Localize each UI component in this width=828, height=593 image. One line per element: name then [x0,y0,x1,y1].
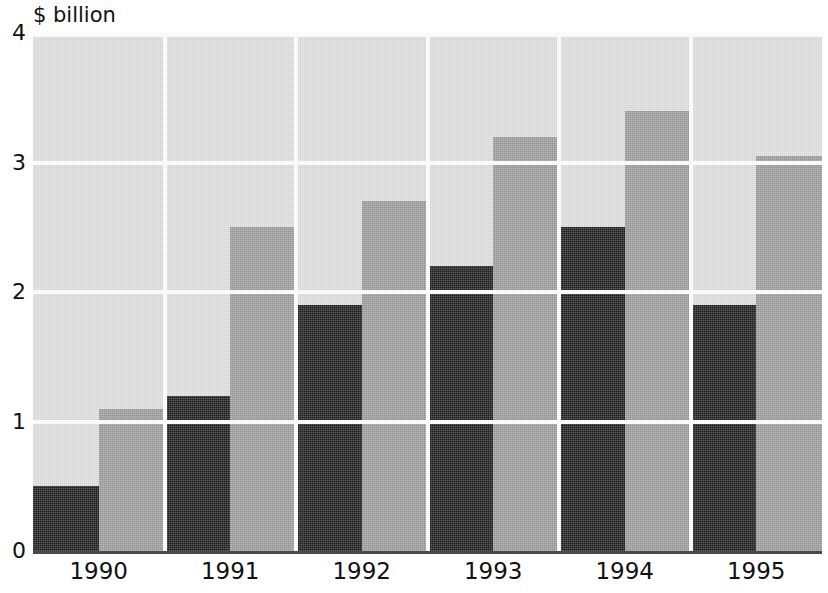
x-tick-label-1994: 1994 [559,558,691,584]
gridline-x-1992 [294,33,298,551]
y-tick-label-3: 3 [0,152,26,174]
bar-series-b-1992 [362,201,428,551]
bar-series-b-1994 [625,111,691,551]
bar-series-a-1993 [428,266,494,551]
x-tick-label-1993: 1993 [428,558,560,584]
x-tick-label-1995: 1995 [691,558,823,584]
axis-baseline [33,551,822,554]
x-tick-label-1990: 1990 [33,558,165,584]
x-tick-label-1991: 1991 [165,558,297,584]
y-tick-label-1: 1 [0,411,26,433]
gridline-x-1994 [557,33,561,551]
y-tick-label-4: 4 [0,22,26,44]
bar-series-a-1995 [691,305,757,551]
bar-series-b-1993 [493,137,559,551]
y-axis-unit-label: $ billion [33,2,116,28]
y-tick-label-2: 2 [0,281,26,303]
bar-chart: $ billion 01234 199019911992199319941995 [0,0,828,593]
gridline-x-1991 [163,33,167,551]
bar-series-b-1995 [756,156,822,551]
gridline-x-1995 [689,33,693,551]
bar-series-a-1990 [33,486,99,551]
bar-series-a-1994 [559,227,625,551]
bar-series-b-1991 [230,227,296,551]
y-tick-label-0: 0 [0,540,26,562]
plot-area [33,33,822,551]
bar-series-b-1990 [99,409,165,551]
bar-series-a-1992 [296,305,362,551]
x-tick-label-1992: 1992 [296,558,428,584]
gridline-x-1993 [426,33,430,551]
